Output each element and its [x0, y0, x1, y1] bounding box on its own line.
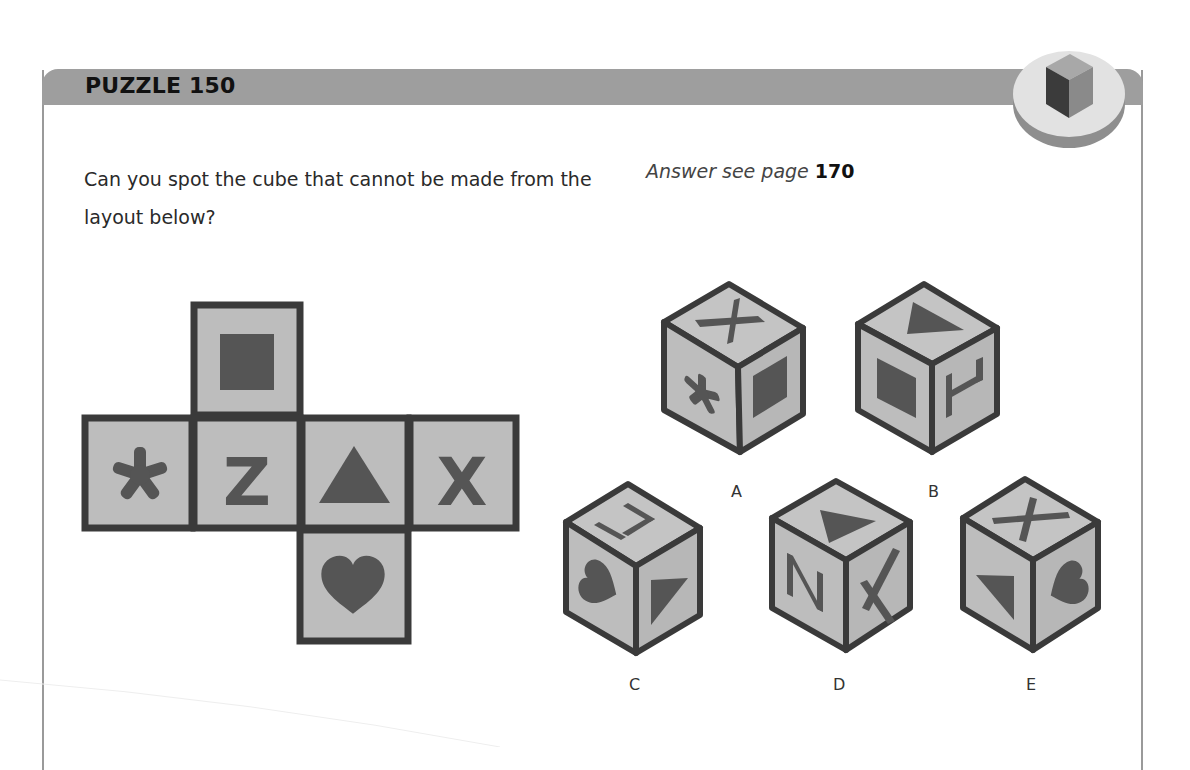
cube-option-d[interactable]	[772, 481, 910, 650]
option-label-d: D	[833, 675, 845, 694]
x-symbol: X	[437, 444, 488, 521]
cube-option-e[interactable]	[963, 479, 1098, 650]
cube-option-b[interactable]	[858, 284, 997, 452]
option-label-a: A	[731, 482, 742, 501]
option-label-c: C	[629, 675, 640, 694]
square-symbol	[220, 334, 274, 390]
option-label-e: E	[1026, 675, 1036, 694]
cube-badge-icon	[1013, 51, 1125, 148]
cube-option-a[interactable]	[664, 284, 803, 452]
z-symbol: Z	[223, 444, 271, 521]
option-label-b: B	[928, 482, 939, 501]
cube-option-c[interactable]	[566, 484, 700, 653]
